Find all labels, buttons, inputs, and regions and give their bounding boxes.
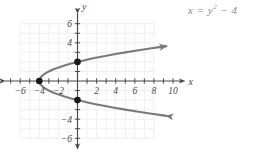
x-tick-label: 10	[168, 86, 178, 96]
plot-point	[74, 97, 81, 104]
y-axis-label: y	[81, 1, 87, 12]
plot-point	[74, 59, 81, 66]
y-tick-label: −4	[61, 115, 72, 125]
x-tick-label: −2	[53, 86, 64, 96]
x-tick-label: 8	[152, 86, 157, 96]
equation-tail: − 4	[217, 4, 237, 16]
y-tick-label: 4	[67, 38, 72, 48]
tick-labels: −6−4−224681064−4−6xy	[15, 1, 194, 144]
x-tick-label: 4	[113, 86, 118, 96]
x-tick-label: −6	[15, 86, 26, 96]
y-tick-label: −6	[61, 134, 72, 144]
plot-point	[36, 78, 43, 85]
x-tick-label: 2	[94, 86, 99, 96]
equation-label: x = y2 − 4	[188, 3, 238, 16]
coordinate-plane: −6−4−224681064−4−6xy	[0, 0, 260, 154]
x-tick-label: −4	[34, 86, 45, 96]
x-tick-label: 6	[132, 86, 137, 96]
x-axis-label: x	[187, 76, 193, 87]
graph-figure: x = y2 − 4 −6−4−224681064−4−6xy	[0, 0, 260, 154]
equation-base: x = y	[188, 4, 213, 16]
y-tick-label: 6	[67, 19, 72, 29]
